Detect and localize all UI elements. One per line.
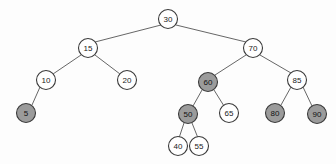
tree-edge [193,90,202,106]
tree-edge [214,90,224,106]
tree-node[interactable]: 50 [179,105,198,124]
tree-node-label: 15 [84,44,93,53]
tree-node-label: 60 [204,78,213,87]
tree-node[interactable]: 65 [220,104,239,123]
tree-node[interactable]: 60 [199,73,218,92]
tree-node[interactable]: 30 [159,10,178,29]
tree-node-label: 90 [313,110,322,119]
tree-node[interactable]: 85 [288,71,307,90]
tree-diagram-svg: 301570102060855506580904055 [0,0,336,164]
tree-node-label: 50 [184,110,193,119]
tree-node-label: 85 [293,76,302,85]
tree-nodes-group: 301570102060855506580904055 [17,10,327,156]
tree-node-label: 30 [164,15,173,24]
tree-edge [95,55,120,74]
tree-node-label: 5 [24,109,29,118]
tree-node-label: 40 [174,142,183,151]
tree-node[interactable]: 20 [118,71,137,90]
tree-node-label: 55 [195,142,204,151]
tree-edge [53,55,81,74]
tree-node[interactable]: 5 [17,104,36,123]
tree-node[interactable]: 40 [169,137,188,156]
tree-node-label: 80 [271,109,280,118]
tree-node-label: 65 [225,109,234,118]
tree-edge [281,87,291,105]
tree-node[interactable]: 70 [244,39,263,58]
tree-node[interactable]: 15 [79,39,98,58]
tree-node[interactable]: 10 [37,71,56,90]
tree-edge [192,123,198,138]
tree-node[interactable]: 80 [266,104,285,123]
tree-node-label: 10 [42,76,51,85]
tree-edge [32,87,40,105]
tree-edge [260,55,291,73]
tree-edge [95,25,161,42]
tree-node[interactable]: 55 [190,137,209,156]
tree-node-label: 20 [123,76,132,85]
tree-edge [215,55,246,75]
tree-node[interactable]: 90 [308,105,327,124]
tree-edge [176,25,246,42]
tree-diagram-canvas: 301570102060855506580904055 [0,0,336,164]
tree-node-label: 70 [249,44,258,53]
tree-edge [303,87,312,106]
tree-edge [179,123,184,138]
